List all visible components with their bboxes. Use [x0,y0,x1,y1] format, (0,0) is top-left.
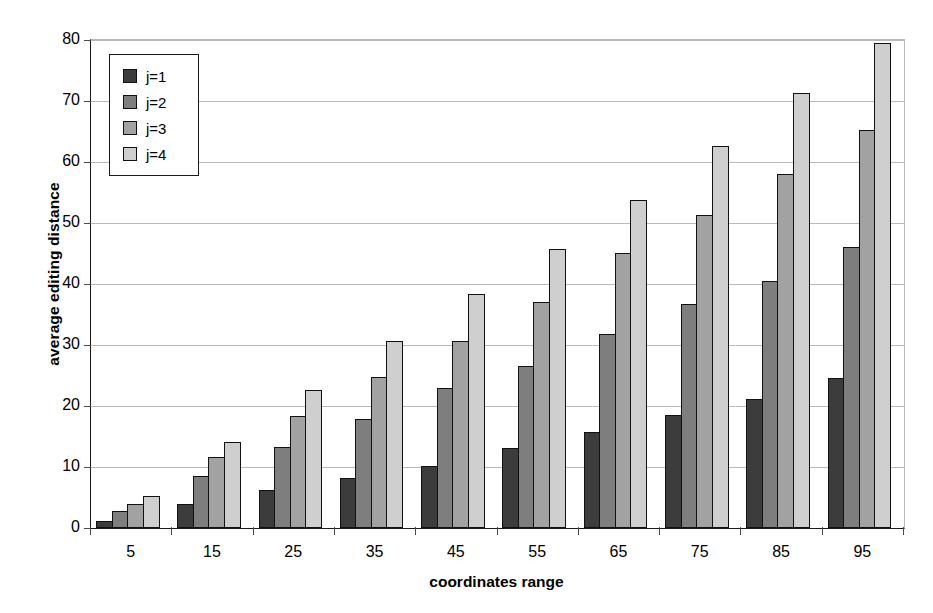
bar-j3-75 [696,215,713,528]
x-axis-tick-mark [822,527,823,535]
bar-j2-95 [843,247,860,528]
bar-j2-85 [762,281,779,528]
x-axis-tick-mark [903,527,904,535]
bar-j1-45 [421,466,438,528]
x-axis-tick-label: 55 [496,543,577,567]
bar-j3-95 [859,130,876,528]
legend: j=1j=2j=3j=4 [109,54,199,176]
x-axis-tick-mark [740,527,741,535]
bar-j4-5 [143,496,160,528]
x-axis-tick-label: 85 [740,543,821,567]
bar-j2-25 [274,447,291,528]
legend-swatch-icon [123,147,137,161]
bar-chart-figure: average editing distance 010203040506070… [0,0,933,613]
bar-j4-25 [305,390,322,528]
legend-label: j=1 [146,68,166,85]
legend-swatch-icon [123,121,137,135]
x-axis-tick-label: 45 [415,543,496,567]
x-axis-tick-label: 95 [822,543,903,567]
bar-j1-95 [828,378,845,528]
y-axis-tick-mark [84,467,91,468]
y-axis-tick-label: 80 [44,30,80,48]
bar-group [416,40,497,528]
x-axis-tick-label: 35 [334,543,415,567]
y-axis-tick-label: 20 [44,396,80,414]
legend-item-j2: j=2 [110,89,198,115]
y-axis-tick-mark [84,40,91,41]
y-axis-tick-mark [84,223,91,224]
legend-swatch-icon [123,69,137,83]
bar-j2-65 [599,334,616,528]
bar-group [741,40,822,528]
bar-j1-65 [584,432,601,528]
legend-swatch-icon [123,95,137,109]
x-axis-tick-labels: 5152535455565758595 [90,543,903,567]
legend-label: j=3 [146,120,166,137]
x-axis-title: coordinates range [90,573,903,591]
y-axis-tick-label: 60 [44,152,80,170]
bar-j2-35 [355,419,372,528]
bar-j3-85 [777,174,794,528]
bar-group [823,40,904,528]
x-axis-tick-mark [253,527,254,535]
plot-area [90,39,905,529]
bar-j4-95 [874,43,891,528]
y-axis-tick-mark [84,345,91,346]
legend-label: j=4 [146,146,166,163]
y-axis-tick-label: 70 [44,91,80,109]
y-axis-tick-label: 0 [44,518,80,536]
x-axis-tick-mark [578,527,579,535]
bar-j4-75 [712,146,729,528]
bar-j3-15 [208,457,225,528]
x-axis-tick-label: 25 [253,543,334,567]
legend-item-j3: j=3 [110,115,198,141]
bar-j3-55 [533,302,550,528]
bar-j4-45 [468,294,485,528]
bar-j4-85 [793,93,810,528]
y-axis-tick-label: 30 [44,335,80,353]
legend-label: j=2 [146,94,166,111]
x-axis-tick-mark [497,527,498,535]
x-axis-tick-mark [171,527,172,535]
x-axis-tick-mark [659,527,660,535]
bar-j3-35 [371,377,388,528]
bar-j4-15 [224,442,241,528]
x-axis-tick-mark [415,527,416,535]
y-axis-tick-mark [84,101,91,102]
bar-j1-75 [665,415,682,528]
bar-j2-55 [518,366,535,528]
bar-j1-35 [340,478,357,528]
bar-j4-35 [386,341,403,528]
legend-item-j4: j=4 [110,141,198,167]
x-axis-tick-label: 75 [659,543,740,567]
bar-group [254,40,335,528]
bar-j2-15 [193,476,210,528]
bar-j3-65 [615,253,632,528]
x-axis-tick-mark [90,527,91,535]
bar-group [660,40,741,528]
x-axis-tick-label: 65 [578,543,659,567]
legend-item-j1: j=1 [110,63,198,89]
bar-j1-85 [746,399,763,528]
y-axis-tick-mark [84,406,91,407]
y-axis-tick-mark [84,284,91,285]
bar-j3-25 [290,416,307,528]
bar-j4-65 [630,200,647,528]
bar-group [579,40,660,528]
y-axis-tick-label: 40 [44,274,80,292]
bar-j2-45 [437,388,454,528]
x-axis-tick-marks [90,527,903,537]
bar-j1-55 [502,448,519,528]
bar-j1-15 [177,504,194,528]
x-axis-tick-mark [334,527,335,535]
y-axis-tick-label: 10 [44,457,80,475]
y-axis-tick-label: 50 [44,213,80,231]
x-axis-tick-label: 15 [171,543,252,567]
bar-j3-5 [127,504,144,528]
y-axis-tick-labels: 01020304050607080 [40,0,80,613]
bar-j2-75 [681,304,698,528]
bar-j4-55 [549,249,566,528]
bar-group [497,40,578,528]
bar-j2-5 [112,511,129,528]
x-axis-tick-label: 5 [90,543,171,567]
